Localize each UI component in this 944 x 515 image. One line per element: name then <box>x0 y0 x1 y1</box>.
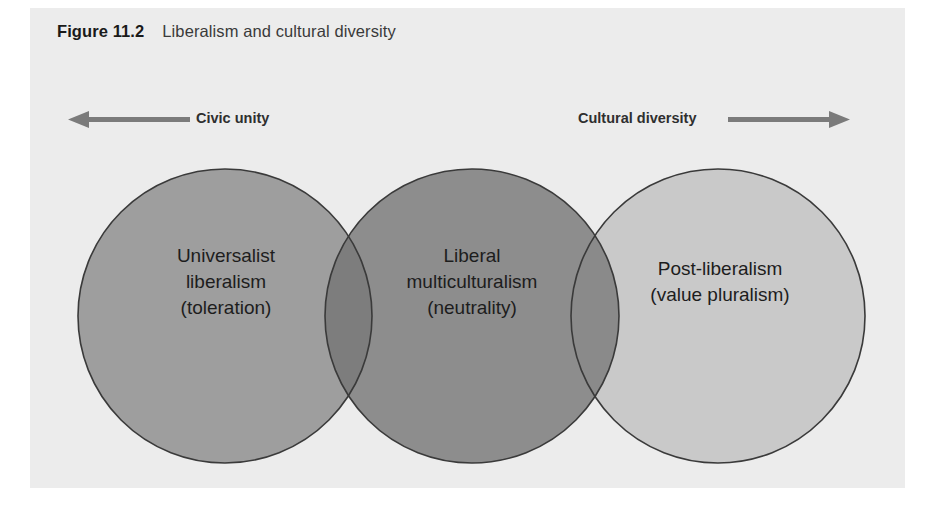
figure-root: Figure 11.2Liberalism and cultural diver… <box>0 0 944 515</box>
venn-diagram <box>0 0 944 515</box>
